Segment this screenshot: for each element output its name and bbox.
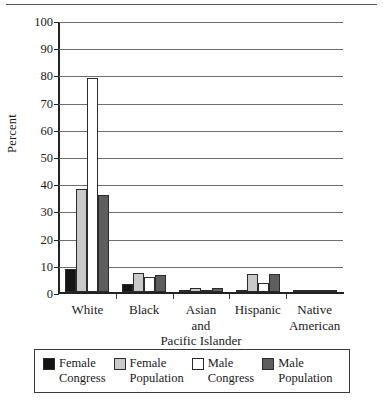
- bar[interactable]: [76, 189, 87, 292]
- bar[interactable]: [98, 195, 109, 293]
- bar[interactable]: [258, 283, 269, 293]
- bar[interactable]: [269, 274, 280, 292]
- legend-label: Female Congress: [59, 356, 106, 385]
- y-axis-tick-label: 20: [23, 233, 53, 246]
- legend-label: Male Population: [278, 356, 332, 385]
- x-axis-tick-label: Native American: [272, 302, 357, 333]
- legend-item[interactable]: Male Population: [254, 356, 332, 385]
- y-axis-title: Percent: [5, 98, 20, 170]
- bar[interactable]: [122, 284, 133, 292]
- legend-swatch-icon: [192, 358, 204, 370]
- bar-group-bars: [229, 20, 286, 292]
- legend-label: Female Population: [130, 356, 184, 385]
- bar-group: [173, 20, 230, 292]
- bar[interactable]: [190, 288, 201, 293]
- bar[interactable]: [304, 290, 315, 292]
- bar[interactable]: [65, 269, 76, 292]
- bar-group-bars: [286, 20, 343, 292]
- legend-swatch-icon: [262, 358, 274, 370]
- x-axis-line: [58, 292, 344, 294]
- y-axis-tick-label: 10: [23, 261, 53, 274]
- bar[interactable]: [87, 78, 98, 293]
- legend-item[interactable]: Male Congress: [184, 356, 255, 385]
- x-axis-tick-mark: [229, 294, 230, 299]
- bar[interactable]: [212, 288, 223, 293]
- legend-item[interactable]: Female Population: [106, 356, 184, 385]
- y-axis-tick-label: 80: [23, 70, 53, 83]
- bar-group: [229, 20, 286, 292]
- bar-group-bars: [59, 20, 116, 292]
- bar-group: [286, 20, 343, 292]
- bar[interactable]: [315, 290, 326, 292]
- chart-page: Percent 0102030405060708090100 WhiteBlac…: [0, 0, 383, 402]
- bar-group: [59, 20, 116, 292]
- bar-group: [116, 20, 173, 292]
- y-axis-tick-label: 70: [23, 97, 53, 110]
- bar[interactable]: [179, 290, 190, 292]
- page-top-rule: [6, 4, 377, 5]
- y-axis-tick-label: 30: [23, 206, 53, 219]
- y-axis-tick-label: 40: [23, 179, 53, 192]
- bar[interactable]: [144, 277, 155, 293]
- bar-chart: Percent 0102030405060708090100 WhiteBlac…: [0, 14, 383, 299]
- bar-group-bars: [173, 20, 230, 292]
- y-axis-tick-label: 50: [23, 152, 53, 165]
- bar[interactable]: [133, 273, 144, 293]
- chart-legend: Female CongressFemale PopulationMale Con…: [34, 349, 350, 393]
- x-axis-tick-mark: [116, 294, 117, 299]
- bar[interactable]: [247, 274, 258, 292]
- legend-label: Male Congress: [208, 356, 255, 385]
- x-axis-tick-mark: [286, 294, 287, 299]
- y-axis-tick-label: 60: [23, 125, 53, 138]
- bar[interactable]: [236, 290, 247, 293]
- y-axis-tick-label: 90: [23, 43, 53, 56]
- y-axis-tick-label: 0: [23, 288, 53, 301]
- legend-item[interactable]: Female Congress: [35, 356, 106, 385]
- bar-group-bars: [116, 20, 173, 292]
- bar[interactable]: [293, 290, 304, 292]
- legend-swatch-icon: [114, 358, 126, 370]
- bar[interactable]: [155, 275, 166, 293]
- plot-area: 0102030405060708090100: [59, 22, 343, 294]
- bar[interactable]: [326, 290, 337, 292]
- bar[interactable]: [201, 290, 212, 292]
- y-axis-tick-label: 100: [23, 16, 53, 29]
- x-axis-tick-mark: [173, 294, 174, 299]
- y-axis-tick-mark: [54, 294, 59, 295]
- legend-swatch-icon: [43, 358, 55, 370]
